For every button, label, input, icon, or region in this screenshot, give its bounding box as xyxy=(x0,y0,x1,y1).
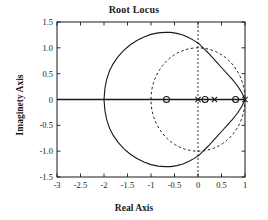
y-tick-label: 0 xyxy=(49,95,53,105)
plot-canvas: -3-2.5-2-1.5-1-0.500.51 1.51.00.50-0.5-1… xyxy=(0,0,268,220)
x-tick-label: 0.5 xyxy=(216,180,227,190)
y-tick-label: 1.5 xyxy=(42,17,53,27)
x-tick-label: -2 xyxy=(100,180,107,190)
root-locus-figure: Root Locus -3-2.5-2-1.5-1-0.500.51 1.51.… xyxy=(0,0,268,220)
x-axis-tick-labels: -3-2.5-2-1.5-1-0.500.51 xyxy=(53,180,247,190)
y-tick-label: -1.0 xyxy=(40,146,53,156)
x-tick-label: 1 xyxy=(243,180,247,190)
x-tick-label: 0 xyxy=(196,180,200,190)
y-tick-label: 0.5 xyxy=(42,69,53,79)
x-tick-label: -1.5 xyxy=(121,180,134,190)
y-axis-label: Imaginety Axis xyxy=(15,50,25,160)
x-axis-label: Real Axis xyxy=(0,203,268,213)
y-tick-label: 1.0 xyxy=(42,43,53,53)
y-tick-label: -0.5 xyxy=(40,120,53,130)
x-tick-label: -2.5 xyxy=(74,180,87,190)
x-tick-label: -0.5 xyxy=(168,180,181,190)
y-axis-tick-labels: 1.51.00.50-0.5-1.0-1.5 xyxy=(40,17,53,182)
y-tick-label: -1.5 xyxy=(40,172,53,182)
x-tick-label: -1 xyxy=(147,180,154,190)
x-tick-label: -3 xyxy=(53,180,60,190)
